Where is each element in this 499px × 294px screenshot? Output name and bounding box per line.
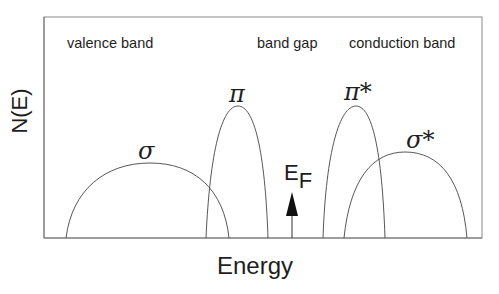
pi-band-curve	[206, 106, 268, 238]
sigma-band-label: σ	[138, 139, 154, 163]
x-axis-label: Energy	[217, 252, 293, 280]
band-gap-label: band gap	[257, 35, 317, 51]
pi-star-band-curve	[323, 106, 385, 238]
fermi-arrow-head-icon	[286, 192, 298, 216]
sigma-star-band-label: σ*	[406, 128, 434, 152]
valence-band-label: valence band	[67, 35, 153, 51]
pi-band-label: π	[229, 82, 245, 106]
y-axis-label: N(E)	[7, 88, 33, 133]
band-structure-diagram: valence band band gap conduction band N(…	[0, 0, 499, 294]
fermi-level-label: EF	[284, 162, 312, 192]
fermi-label-sub: F	[299, 168, 312, 193]
sigma-band-curve	[66, 163, 229, 238]
conduction-band-label: conduction band	[349, 35, 455, 51]
pi-star-band-label: π*	[344, 80, 372, 104]
fermi-label-main: E	[284, 160, 299, 185]
sigma-star-band-curve	[344, 152, 467, 238]
